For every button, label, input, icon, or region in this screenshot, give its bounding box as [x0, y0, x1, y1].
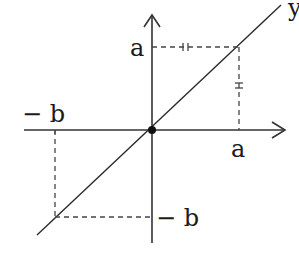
- label-a-x-axis: a: [231, 135, 245, 163]
- label-neg-b-x-axis: − b: [22, 100, 65, 128]
- identity-line: [37, 5, 281, 235]
- label-a-y-axis: a: [130, 34, 144, 62]
- projection-a: [152, 47, 239, 130]
- label-y-axis: y: [287, 0, 299, 22]
- origin-point: [148, 126, 156, 134]
- label-neg-b-y-axis: − b: [156, 204, 199, 232]
- diagram-canvas: a a − b − b y: [0, 0, 299, 255]
